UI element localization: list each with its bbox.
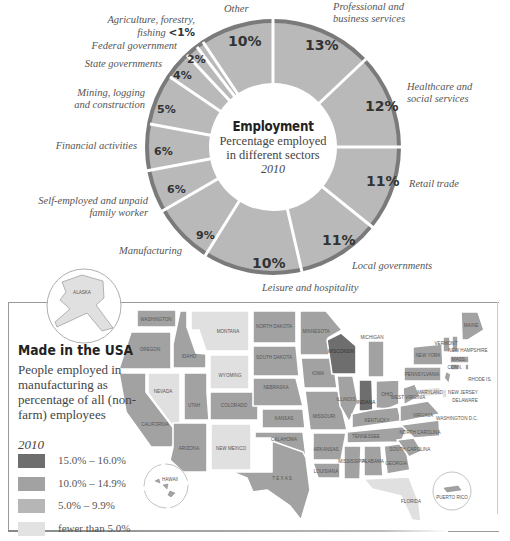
state-vermont: VERMONT xyxy=(435,341,458,346)
state-texas: T E X A S xyxy=(272,476,292,481)
label-state: State governments xyxy=(85,58,162,70)
pct-retail: 11% xyxy=(366,173,400,189)
map-subtitle: People employed in manufacturing as perc… xyxy=(18,362,148,422)
map-year: 2010 xyxy=(18,437,44,453)
state-minnesota: MINNESOTA xyxy=(303,329,331,334)
pct-other: 10% xyxy=(228,33,262,49)
state-california: CALIFORNIA xyxy=(141,422,170,427)
label-mining-2: and construction xyxy=(74,99,145,110)
label-agriculture-pct: <1% xyxy=(168,26,195,38)
pct-local: 11% xyxy=(322,232,356,248)
state-pennsylvania: PENNSYLVANIA xyxy=(405,372,440,377)
pct-state: 4% xyxy=(173,69,192,82)
label-healthcare-1: Healthcare and xyxy=(407,81,472,92)
pct-professional: 13% xyxy=(305,37,339,53)
label-mining-1: Mining, logging xyxy=(77,87,145,98)
state-wyoming: WYOMING xyxy=(219,373,242,378)
state-louisiana: LOUISIANA xyxy=(314,469,339,474)
state-west-virginia: WEST VIRGINIA xyxy=(391,395,427,400)
state-idaho: IDAHO xyxy=(182,354,197,359)
donut-subtitle-2: in different sectors xyxy=(215,148,331,162)
pct-federal: 2% xyxy=(187,53,206,66)
state-arkansas: ARKANSAS xyxy=(313,447,338,452)
state-massachusetts: MASS. xyxy=(452,357,466,362)
label-professional-2: business services xyxy=(333,13,405,24)
label-healthcare: Healthcare and social services xyxy=(407,81,472,105)
state-missouri: MISSOURI xyxy=(313,414,336,419)
donut-subtitle-1: Percentage employed xyxy=(215,134,331,148)
state-maine: MAINE xyxy=(464,323,479,328)
state-rhode-island: RHODE IS. xyxy=(468,377,491,382)
donut-title: Employment xyxy=(224,118,323,134)
state-south-dakota: SOUTH DAKOTA xyxy=(256,355,293,360)
state-florida: FLORIDA xyxy=(401,499,422,504)
pct-mining: 5% xyxy=(157,103,176,116)
state-washington-dc: WASHINGTON D.C. xyxy=(436,416,478,421)
state-arizona: ARIZONA xyxy=(179,446,200,451)
state-nevada: NEVADA xyxy=(154,389,173,394)
state-alaska: ALASKA xyxy=(73,290,92,295)
state-tennessee: TENNESSEE xyxy=(352,434,380,439)
label-manufacturing: Manufacturing xyxy=(119,245,182,257)
label-financial: Financial activities xyxy=(56,140,137,152)
donut-center-title: Employment Percentage employed in differ… xyxy=(215,118,331,177)
state-new-jersey: NEW JERSEY xyxy=(448,390,478,395)
label-agriculture: Agriculture, forestry, fishing <1% xyxy=(107,14,195,39)
label-mining: Mining, logging and construction xyxy=(74,87,145,111)
label-professional: Professional and business services xyxy=(333,1,405,25)
state-washington: WASHINGTON xyxy=(140,317,171,322)
map-title: Made in the USA xyxy=(18,342,133,358)
legend-swatch-light xyxy=(18,522,45,536)
state-illinois: ILLINOIS xyxy=(337,397,356,402)
label-healthcare-2: social services xyxy=(407,93,469,104)
legend-swatch-mid xyxy=(18,477,45,491)
state-connecticut: CONN. xyxy=(448,365,463,370)
pct-self-employed: 6% xyxy=(167,183,186,196)
state-iowa: IOWA xyxy=(312,371,325,376)
state-kansas: KANSAS xyxy=(275,416,294,421)
state-maryland: MARYLAND xyxy=(417,390,443,395)
label-professional-1: Professional and xyxy=(333,1,404,12)
state-michigan: MICHIGAN xyxy=(361,335,384,340)
state-hawaii: HAWAII xyxy=(162,477,178,482)
pct-financial: 6% xyxy=(154,145,173,158)
state-virginia: VIRGINIA xyxy=(413,413,434,418)
state-new-york: NEW YORK xyxy=(416,353,442,358)
label-federal: Federal government xyxy=(92,40,177,52)
legend-swatch-light-mid xyxy=(18,499,45,513)
legend-swatch-dark xyxy=(18,454,45,468)
state-alabama: ALABAMA xyxy=(362,459,385,464)
label-self-employed-1: Self-employed and unpaid xyxy=(38,195,148,206)
label-self-employed-2: family worker xyxy=(89,207,148,218)
pct-healthcare: 12% xyxy=(365,98,399,114)
state-new-hampshire: NEW HAMPSHIRE xyxy=(448,348,487,353)
state-south-carolina: SOUTH CAROLINA xyxy=(390,447,432,452)
state-oklahoma: OKLAHOMA xyxy=(271,437,298,442)
state-colorado: COLORADO xyxy=(221,403,248,408)
state-delaware: DELAWARE xyxy=(452,398,477,403)
legend-label: 5.0% – 9.9% xyxy=(58,499,115,511)
donut-year: 2010 xyxy=(215,162,331,177)
state-montana: MONTANA xyxy=(217,329,241,334)
state-oregon: OREGON xyxy=(140,347,160,352)
territory-puerto-rico: PUERTO RICO xyxy=(436,495,468,500)
label-retail: Retail trade xyxy=(409,178,459,190)
state-kentucky: KENTUCKY xyxy=(364,418,389,423)
state-north-carolina: NORTH CAROLINA xyxy=(399,430,441,435)
label-agriculture-2: fishing xyxy=(137,27,166,38)
state-nebraska: NEBRASKA xyxy=(263,385,289,390)
label-other: Other xyxy=(224,3,249,15)
label-agriculture-1: Agriculture, forestry, xyxy=(107,14,195,25)
state-wisconsin: WISCONSIN xyxy=(328,349,355,354)
pct-manufacturing: 9% xyxy=(196,229,215,242)
legend-label: 15.0% – 16.0% xyxy=(58,454,126,466)
state-new-mexico: NEW MEXICO xyxy=(216,446,247,451)
legend-label: fewer than 5.0% xyxy=(58,522,130,534)
label-self-employed: Self-employed and unpaid family worker xyxy=(38,195,148,219)
state-indiana: INDIANA xyxy=(357,400,377,405)
state-utah: UTAH xyxy=(188,403,200,408)
legend-label: 10.0% – 14.9% xyxy=(58,477,126,489)
state-georgia: GEORGIA xyxy=(385,461,407,466)
state-north-dakota: NORTH DAKOTA xyxy=(256,324,293,329)
